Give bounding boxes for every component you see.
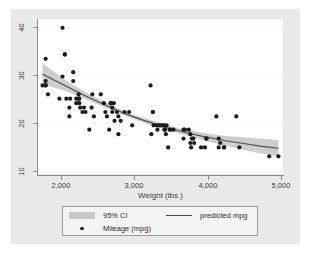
legend-label-mileage: Mileage (mpg) xyxy=(103,222,151,235)
scatter-point xyxy=(192,141,196,145)
scatter-point xyxy=(63,52,67,56)
scatter-point xyxy=(57,97,61,101)
scatter-point xyxy=(76,92,80,96)
scatter-point xyxy=(44,79,48,83)
scatter-point xyxy=(107,128,111,132)
mileage-point-swatch xyxy=(80,227,84,231)
scatter-point xyxy=(110,110,114,114)
scatter-point xyxy=(130,123,134,127)
scatter-point xyxy=(234,114,238,118)
scatter-point xyxy=(116,132,120,136)
scatter-point xyxy=(199,145,203,149)
y-tick-mark-20 xyxy=(33,123,37,124)
scatter-point xyxy=(78,105,82,109)
scatter-point xyxy=(116,114,120,118)
scatter-point xyxy=(276,154,280,158)
scatter-point xyxy=(77,101,81,105)
y-tick-label-20: 20 xyxy=(17,114,26,134)
scatter-point xyxy=(149,132,153,136)
scatter-point xyxy=(127,110,131,114)
scatter-point xyxy=(64,97,68,101)
x-tick-mark-2000 xyxy=(61,176,62,180)
x-tick-label-2000: 2,000 xyxy=(41,181,81,190)
scatter-point xyxy=(90,92,94,96)
y-tick-label-40: 40 xyxy=(17,18,26,38)
scatter-point xyxy=(112,101,116,105)
scatter-point xyxy=(71,79,75,83)
x-tick-mark-4000 xyxy=(208,176,209,180)
scatter-point xyxy=(237,145,241,149)
scatter-point xyxy=(166,145,170,149)
y-tick-mark-30 xyxy=(33,75,37,76)
scatter-point xyxy=(217,145,221,149)
scatter-point xyxy=(217,136,221,140)
legend-row-first: 95% CI predicted mpg xyxy=(63,209,257,222)
scatter-point xyxy=(105,114,109,118)
y-tick-mark-40 xyxy=(33,27,37,28)
scatter-point xyxy=(155,128,159,132)
scatter-point xyxy=(83,110,87,114)
scatter-point xyxy=(44,57,48,61)
scatter-point xyxy=(103,110,107,114)
predicted-line-swatch xyxy=(166,215,192,216)
scatter-point xyxy=(181,136,185,140)
x-tick-label-5000: 5,000 xyxy=(261,181,301,190)
scatter-point xyxy=(165,123,169,127)
scatter-point xyxy=(68,97,72,101)
scatter-point xyxy=(188,141,192,145)
scatter-point xyxy=(110,105,114,109)
x-tick-label-4000: 4,000 xyxy=(188,181,228,190)
scatter-point xyxy=(267,154,271,158)
plot-canvas xyxy=(38,19,283,174)
scatter-point xyxy=(60,26,64,30)
scatter-point xyxy=(60,74,64,78)
scatter-point xyxy=(204,136,208,140)
scatter-point xyxy=(122,110,126,114)
scatter-point xyxy=(151,110,155,114)
scatter-point xyxy=(92,114,96,118)
scatter-point xyxy=(119,119,123,123)
y-tick-mark-10 xyxy=(33,171,37,172)
scatter-point xyxy=(102,101,106,105)
scatter-point xyxy=(89,105,93,109)
scatter-point xyxy=(71,70,75,74)
legend-label-predicted: predicted mpg xyxy=(200,209,248,222)
scatter-point xyxy=(87,128,91,132)
scatter-point xyxy=(82,105,86,109)
scatter-point xyxy=(148,83,152,87)
scatter-point xyxy=(191,136,195,140)
scatter-point xyxy=(189,145,193,149)
x-tick-mark-5000 xyxy=(281,176,282,180)
scatter-point xyxy=(218,141,222,145)
scatter-point xyxy=(214,114,218,118)
scatter-point xyxy=(163,128,167,132)
scatter-point xyxy=(188,132,192,136)
scatter-point xyxy=(77,97,81,101)
legend-box: 95% CI predicted mpg Mileage (mpg) xyxy=(62,206,258,236)
scatter-point xyxy=(44,83,48,87)
legend-row-second: Mileage (mpg) xyxy=(63,222,257,235)
scatter-point xyxy=(115,110,119,114)
plot-area xyxy=(38,19,283,174)
scatter-point xyxy=(164,132,168,136)
scatter-point xyxy=(222,145,226,149)
scatter-point xyxy=(67,105,71,109)
y-tick-label-10: 10 xyxy=(17,162,26,182)
scatter-point xyxy=(187,128,191,132)
scatter-point xyxy=(203,145,207,149)
scatter-point xyxy=(171,128,175,132)
scatter-point xyxy=(67,114,71,118)
y-axis-line xyxy=(37,19,38,175)
x-axis-line xyxy=(37,175,284,176)
x-tick-mark-3000 xyxy=(134,176,135,180)
scatter-point xyxy=(99,92,103,96)
figure-container: 40 30 20 10 2,000 3,000 4,000 5,000 Weig… xyxy=(0,0,311,253)
y-tick-label-30: 30 xyxy=(17,66,26,86)
x-axis-title: Weight (lbs.) xyxy=(38,191,283,200)
scatter-point xyxy=(183,128,187,132)
x-tick-label-3000: 3,000 xyxy=(114,181,154,190)
fit-line xyxy=(43,74,279,148)
scatter-point xyxy=(46,92,50,96)
legend-label-ci: 95% CI xyxy=(103,209,128,222)
scatter-point xyxy=(112,119,116,123)
